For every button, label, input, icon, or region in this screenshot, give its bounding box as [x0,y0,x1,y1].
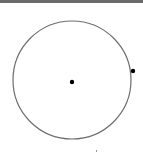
center-point [70,80,74,84]
tick-mark [96,150,97,152]
edge-point [131,69,135,73]
diagram-canvas [0,0,143,157]
